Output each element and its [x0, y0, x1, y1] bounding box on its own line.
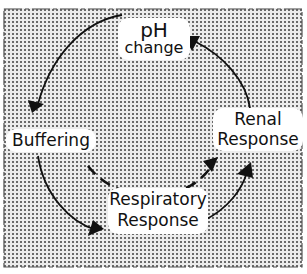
- arrowhead-dashed-renal-icon: [203, 157, 218, 172]
- node-respiratory-line2: Response: [108, 212, 208, 229]
- diagram-canvas: pH change Buffering Renal Response Respi…: [0, 0, 307, 274]
- arrow-respiratory-to-renal: [205, 172, 247, 220]
- node-renal-line1: Renal: [213, 111, 303, 128]
- node-respiratory-response: Respiratory Response: [108, 188, 208, 234]
- arrowhead-renal-icon: [237, 162, 253, 178]
- arrow-renal-to-ph: [196, 42, 250, 108]
- node-respiratory-line1: Respiratory: [108, 191, 208, 208]
- node-ph-change: pH change: [118, 18, 190, 60]
- arrowhead-buffering-icon: [28, 100, 44, 113]
- node-ph-change-line1: pH: [118, 20, 190, 40]
- node-buffering: Buffering: [6, 129, 96, 152]
- node-renal-response: Renal Response: [213, 108, 303, 151]
- node-ph-change-line2: change: [118, 40, 190, 56]
- node-renal-line2: Response: [213, 131, 303, 148]
- arrow-ph-to-buffering: [38, 15, 122, 104]
